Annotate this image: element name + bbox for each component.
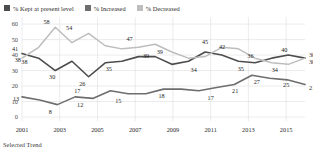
- y-axis-tick-label: 20: [12, 82, 18, 89]
- data-label-decreased: 38: [309, 58, 313, 65]
- y-axis-tick-label: 30: [12, 67, 18, 74]
- data-label-increased: 13: [13, 95, 19, 102]
- legend-swatch-increased: [85, 5, 91, 11]
- legend-item-decreased[interactable]: % Decreased: [137, 5, 180, 12]
- data-label-increased: 27: [254, 78, 260, 85]
- x-axis-tick-label: 2001: [16, 126, 29, 134]
- x-axis: 20012003200520072009201120132015: [0, 126, 313, 138]
- x-axis-tick-label: 2015: [280, 126, 293, 134]
- data-label-increased: 21: [232, 87, 238, 94]
- y-axis-tick-label: 0: [15, 113, 18, 120]
- data-label-decreased: 54: [66, 24, 72, 31]
- y-axis-tick-label: 50: [12, 36, 18, 43]
- data-label-increased: 17: [208, 94, 214, 101]
- data-label-decreased: 58: [43, 18, 49, 25]
- data-label-increased: 25: [283, 81, 289, 88]
- data-label-decreased: 45: [202, 38, 208, 45]
- data-label-decreased: 38: [15, 56, 21, 63]
- series-line-decreased: [22, 27, 305, 64]
- chart-legend: % Kept at present level % Increased % De…: [4, 2, 191, 14]
- legend-swatch-kept: [4, 5, 10, 11]
- data-label-kept: 30: [49, 73, 55, 80]
- series-line-increased: [22, 75, 305, 104]
- x-axis-tick-label: 2013: [242, 126, 255, 134]
- data-label-kept: 35: [106, 65, 112, 72]
- trend-chart: % Kept at present level % Increased % De…: [0, 0, 313, 153]
- data-label-kept: 38: [21, 58, 27, 65]
- x-axis-tick-label: 2007: [129, 126, 142, 134]
- x-axis-tick-label: 2005: [91, 126, 104, 134]
- data-point-labels: 4138302635393442364038385854473945353438…: [12, 18, 313, 114]
- data-label-kept: 42: [219, 43, 225, 50]
- series-line-kept: [22, 52, 305, 77]
- data-label-increased: 18: [159, 92, 165, 99]
- legend-item-kept[interactable]: % Kept at present level: [4, 5, 74, 12]
- data-label-decreased: 35: [238, 65, 244, 72]
- plot-svg: 0102030405060 41383026353934423640383858…: [0, 15, 313, 127]
- data-label-increased: 8: [49, 108, 52, 115]
- x-axis-tick-label: 2009: [167, 126, 180, 134]
- legend-swatch-decreased: [137, 5, 143, 11]
- data-label-kept: 41: [12, 45, 18, 52]
- data-label-kept: 39: [143, 52, 149, 59]
- data-label-decreased: 47: [126, 35, 132, 42]
- legend-item-increased[interactable]: % Increased: [85, 5, 126, 12]
- x-axis-tick-label: 2003: [53, 126, 66, 134]
- plot-area: 0102030405060 41383026353934423640383858…: [0, 15, 313, 127]
- chart-caption: Selected Trend: [3, 140, 42, 149]
- data-label-decreased: 39: [157, 48, 163, 55]
- data-label-increased: 15: [115, 97, 121, 104]
- data-label-increased: 21: [309, 84, 313, 91]
- data-label-kept: 38: [309, 51, 313, 58]
- data-label-kept: 40: [281, 46, 287, 53]
- data-label-kept: 34: [191, 66, 197, 73]
- data-label-kept: 36: [247, 52, 253, 59]
- data-label-increased: 12: [77, 101, 83, 108]
- legend-label-decreased: % Decreased: [146, 5, 180, 12]
- data-label-decreased: 34: [272, 66, 278, 73]
- x-axis-tick-label: 2011: [204, 126, 216, 134]
- y-axis-tick-label: 60: [12, 20, 18, 27]
- legend-label-increased: % Increased: [94, 5, 126, 12]
- y-axis-tick-labels: 0102030405060: [12, 20, 18, 120]
- legend-label-kept: % Kept at present level: [13, 5, 74, 12]
- data-label-increased: 17: [74, 87, 80, 94]
- gridlines: [22, 17, 305, 121]
